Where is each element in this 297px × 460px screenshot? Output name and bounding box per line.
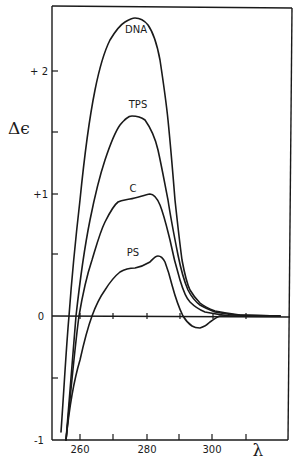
curve-label-dna: DNA [125, 24, 147, 35]
curve-label-c: C [130, 183, 137, 194]
curve-dna [61, 18, 280, 432]
y-ticks [52, 71, 58, 378]
x-label-300: 300 [202, 444, 221, 455]
top-border [52, 6, 292, 8]
y-label-zero: 0 [38, 311, 44, 322]
tps-curve-gap [103, 152, 104, 157]
x-label-260: 260 [70, 444, 89, 455]
cd-spectrum-chart: + 2 +1 0 -1 Δϵ 260 280 300 λ DNA TPS C P… [0, 0, 297, 460]
y-label-plus-1: +1 [33, 189, 48, 200]
curve-label-tps: TPS [128, 99, 148, 110]
curve-label-ps: PS [127, 247, 139, 258]
y-label-plus-2: + 2 [30, 66, 48, 77]
x-axis-title: λ [253, 440, 264, 460]
y-label-minus-1: -1 [34, 435, 44, 446]
curve-ps [66, 256, 280, 440]
y-axis-title: Δϵ [8, 118, 30, 138]
curve-tps [66, 116, 280, 440]
x-label-280: 280 [137, 444, 156, 455]
right-border [288, 8, 292, 440]
x-ticks-bottom [80, 434, 246, 440]
